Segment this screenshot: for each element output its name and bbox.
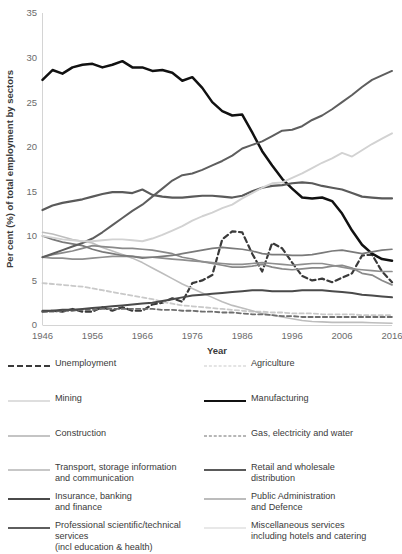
legend-item-label: Retail and wholesale distribution: [251, 462, 335, 485]
legend-item-label: Mining: [55, 393, 82, 404]
y-tick-label: 30: [26, 52, 37, 63]
series-line: [43, 133, 393, 241]
data-series-group: [43, 61, 393, 323]
legend-line-swatch: [8, 522, 50, 534]
line-chart: 05101520253035 1946195619661976198619962…: [0, 0, 402, 358]
y-tick-label: 0: [32, 319, 37, 330]
series-line: [43, 182, 393, 210]
legend-line-swatch: [8, 360, 50, 372]
series-line: [43, 61, 393, 261]
x-tick-label: 1946: [32, 330, 53, 341]
legend-item[interactable]: Mining: [8, 393, 204, 407]
legend-item[interactable]: Miscellaneous services including hotels …: [204, 520, 402, 543]
legend-item-label: Unemployment: [55, 358, 116, 369]
y-tick-label: 20: [26, 141, 37, 152]
x-tick-label: 1966: [132, 330, 153, 341]
legend-line-swatch: [204, 430, 246, 442]
legend-line-swatch: [8, 395, 50, 407]
x-tick-label: 1996: [282, 330, 303, 341]
legend-item[interactable]: Agriculture: [204, 358, 402, 372]
legend-item-label: Gas, electricity and water: [251, 428, 353, 439]
legend-item[interactable]: Public Administration and Defence: [204, 491, 402, 514]
legend-item-label: Construction: [55, 428, 106, 439]
y-tick-label: 5: [32, 275, 37, 286]
legend-column-left: UnemploymentMiningConstructionTransport,…: [8, 358, 204, 554]
y-tick-label: 25: [26, 97, 37, 108]
legend-line-swatch: [204, 522, 246, 534]
x-tick-label: 1976: [182, 330, 203, 341]
legend-item[interactable]: Transport, storage information and commu…: [8, 462, 204, 485]
legend-item[interactable]: Unemployment: [8, 358, 204, 372]
legend-item-label: Miscellaneous services including hotels …: [251, 520, 366, 543]
x-axis-title: Year: [207, 345, 227, 356]
legend-item[interactable]: Insurance, banking and finance: [8, 491, 204, 514]
legend-line-swatch: [204, 464, 246, 476]
legend-item[interactable]: Manufacturing: [204, 393, 402, 407]
y-tick-label: 10: [26, 230, 37, 241]
x-tick-label: 1986: [232, 330, 253, 341]
legend-item-label: Professional scientific/technical servic…: [55, 520, 204, 554]
x-tick-label: 2016: [381, 330, 402, 341]
legend-line-swatch: [8, 493, 50, 505]
x-axis-tick-labels: 19461956196619761986199620062016: [32, 330, 402, 341]
x-tick-label: 1956: [82, 330, 103, 341]
legend-line-swatch: [8, 430, 50, 442]
legend-line-swatch: [204, 395, 246, 407]
legend-item[interactable]: Gas, electricity and water: [204, 428, 402, 442]
legend-line-swatch: [8, 464, 50, 476]
y-axis-tick-labels: 05101520253035: [26, 7, 37, 330]
legend-line-swatch: [204, 360, 246, 372]
legend-item[interactable]: Construction: [8, 428, 204, 442]
legend-column-right: AgricultureManufacturingGas, electricity…: [204, 358, 402, 542]
legend-line-swatch: [204, 493, 246, 505]
series-line: [43, 71, 393, 257]
chart-legend: UnemploymentMiningConstructionTransport,…: [0, 358, 402, 537]
legend-item[interactable]: Retail and wholesale distribution: [204, 462, 402, 485]
legend-item[interactable]: Professional scientific/technical servic…: [8, 520, 204, 554]
y-tick-label: 35: [26, 7, 37, 18]
series-line: [43, 309, 393, 317]
y-axis-title: Per cent (%) of total employment by sect…: [4, 70, 15, 268]
legend-item-label: Transport, storage information and commu…: [55, 462, 176, 485]
legend-item-label: Public Administration and Defence: [251, 491, 335, 514]
legend-item-label: Manufacturing: [251, 393, 309, 404]
legend-item-label: Agriculture: [251, 358, 294, 369]
y-tick-label: 15: [26, 186, 37, 197]
x-tick-label: 2006: [332, 330, 353, 341]
legend-item-label: Insurance, banking and finance: [55, 491, 132, 514]
